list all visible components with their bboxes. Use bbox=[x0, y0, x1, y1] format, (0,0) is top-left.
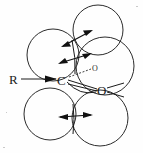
bond-c-upper-stem bbox=[72, 40, 75, 74]
bond-r-to-c-arrowhead bbox=[45, 76, 57, 83]
sphere-top-right bbox=[73, 5, 123, 55]
atom-label-c: C bbox=[57, 73, 66, 88]
arrow-lower-head-right bbox=[83, 112, 93, 118]
atom-label-o: O bbox=[97, 83, 106, 98]
sphere-group bbox=[24, 5, 134, 146]
sphere-lower-left bbox=[24, 88, 76, 140]
scan-artifacts bbox=[3, 6, 138, 148]
sphere-lower-right bbox=[72, 90, 128, 146]
sphere-upper-left bbox=[27, 29, 79, 81]
structure-canvas: R C O O bbox=[0, 0, 143, 153]
arrow-middle-head-right bbox=[82, 53, 92, 59]
bond-c-lower-stem bbox=[73, 104, 74, 134]
arrow-lower-head-left bbox=[58, 114, 68, 120]
chemical-structure-figure: R C O O bbox=[0, 0, 143, 153]
bond-o-right-upper bbox=[107, 83, 124, 88]
arrow-middle-head-left bbox=[58, 58, 68, 64]
atom-label-r: R bbox=[9, 72, 18, 87]
atom-label-lone-pair-o: O bbox=[92, 64, 98, 73]
